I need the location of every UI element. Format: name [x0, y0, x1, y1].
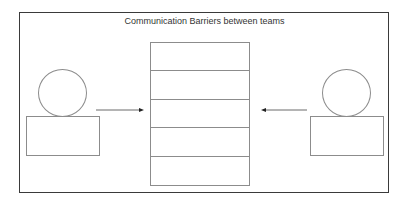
left-arrow-icon	[96, 108, 144, 112]
arrows-layer	[0, 0, 409, 200]
right-arrow-icon	[261, 108, 307, 112]
